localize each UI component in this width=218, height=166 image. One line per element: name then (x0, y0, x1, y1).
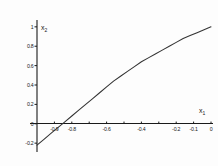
y-tick-label: 0.4 (27, 82, 34, 88)
x-axis-label: x1 (199, 107, 205, 114)
y-axis-label: x2 (41, 24, 47, 31)
y-tick-label: 0 (31, 121, 34, 127)
x-tick-label: -0.8 (68, 126, 76, 132)
y-tick-label: -0.2 (25, 140, 33, 146)
y-tick-label: 0.2 (27, 101, 34, 107)
x-tick-label: -0.4 (137, 126, 145, 132)
x-tick-label: -0.2 (172, 126, 180, 132)
y-tick-label: 1 (31, 24, 34, 30)
x-tick-label: -0.6 (103, 126, 111, 132)
y-axis-label-subscript: 2 (45, 27, 48, 33)
data-curve (37, 27, 211, 145)
y-tick-label: 0.8 (27, 43, 34, 49)
chart-figure: x2 x1 -0.200.20.40.60.81 -0.9-0.8-0.6-0.… (0, 0, 218, 166)
x-tick-label: 0 (210, 126, 213, 132)
x-axis-label-subscript: 1 (203, 110, 206, 116)
x-tick-label: -0.9 (50, 126, 58, 132)
y-tick-label: 0.6 (27, 63, 34, 69)
x-axis-label-base: x (199, 107, 203, 114)
x-tick-label: -0.1 (190, 126, 198, 132)
y-axis-label-base: x (41, 24, 45, 31)
